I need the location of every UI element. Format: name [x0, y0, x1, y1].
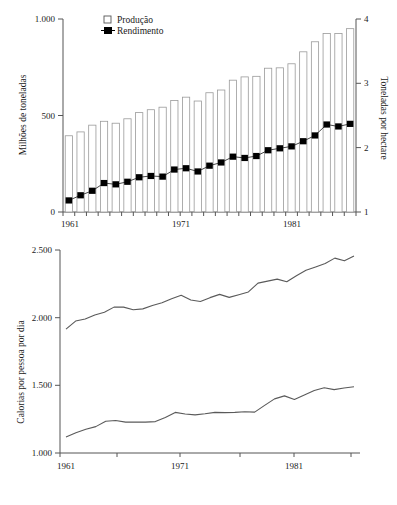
yield-marker	[148, 173, 155, 179]
calories-line	[66, 256, 354, 329]
production-bar	[124, 119, 131, 212]
left-axis: 1.000 500 0	[35, 14, 63, 217]
x-tick-label-1961: 1961	[61, 219, 79, 229]
yield-marker	[159, 174, 166, 180]
production-bar	[89, 125, 96, 212]
left-tick-label-1000: 1.000	[35, 14, 56, 24]
production-bar	[218, 90, 225, 212]
calories-tick-label-1500: 1.500	[32, 380, 53, 390]
legend-label-rendimento: Rendimento	[117, 26, 164, 36]
calories-axis-title: Calorias por pessoa por dia	[16, 320, 26, 424]
production-bar	[194, 101, 201, 212]
yield-marker	[300, 138, 307, 144]
yield-marker	[277, 145, 284, 151]
yield-marker	[77, 192, 84, 198]
production-bar	[276, 68, 283, 212]
production-bar	[112, 123, 119, 212]
yield-marker	[347, 121, 354, 127]
calories-x-label-1971: 1971	[171, 461, 189, 471]
production-bar	[77, 132, 84, 212]
legend-label-producao: Produção	[117, 15, 153, 25]
right-tick-label-4: 4	[364, 14, 369, 24]
production-bar	[288, 64, 295, 212]
right-tick-label-3: 3	[364, 78, 369, 88]
calories-y-axis: 2.500 2.000 1.500 1.000	[32, 245, 60, 458]
yield-marker	[335, 123, 342, 129]
right-axis: 4 3 2 1	[356, 14, 369, 217]
right-tick-label-2: 2	[364, 143, 369, 153]
yield-marker	[195, 168, 202, 174]
legend-swatch-rendimento	[104, 27, 112, 34]
x-axis: 1961 1971 1981	[61, 212, 356, 229]
left-axis-title: Milhões de toneladas	[18, 74, 28, 155]
calories-x-label-1981: 1981	[285, 461, 303, 471]
production-bar	[171, 100, 178, 212]
production-bar	[335, 33, 342, 212]
production-bar	[253, 76, 260, 212]
yield-marker	[218, 159, 225, 165]
x-tick-label-1981: 1981	[283, 219, 301, 229]
yield-marker	[89, 188, 96, 194]
calories-tick-label-1000: 1.000	[32, 448, 53, 458]
left-tick-label-500: 500	[42, 111, 56, 121]
yield-marker	[171, 166, 178, 172]
production-bar	[300, 52, 307, 212]
production-bar	[264, 68, 271, 212]
yield-marker	[101, 180, 108, 186]
production-bar	[182, 97, 189, 212]
yield-marker	[288, 143, 295, 149]
production-bars	[65, 29, 354, 212]
yield-marker	[323, 121, 330, 127]
calories-tick-label-2500: 2.500	[32, 245, 53, 255]
production-bar	[206, 93, 213, 212]
production-yield-chart-panel: Milhões de toneladas Toneladas por hecta…	[0, 0, 397, 240]
calories-tick-label-2000: 2.000	[32, 313, 53, 323]
production-bar	[100, 121, 107, 212]
chart-legend: Produção Rendimento	[101, 15, 164, 36]
calories-series	[66, 256, 354, 437]
yield-marker	[312, 132, 319, 138]
yield-marker	[66, 197, 73, 203]
yield-marker	[124, 179, 131, 185]
production-bar	[311, 42, 318, 212]
yield-marker	[230, 154, 237, 160]
yield-marker	[241, 155, 248, 161]
yield-marker	[112, 181, 119, 187]
production-bar	[229, 80, 236, 212]
legend-swatch-producao	[104, 16, 111, 23]
calories-x-axis: 1961 1971 1981	[57, 453, 360, 471]
yield-marker	[253, 153, 260, 159]
calories-x-label-1961: 1961	[57, 461, 75, 471]
yield-marker	[136, 174, 143, 180]
production-bar	[241, 77, 248, 212]
yield-marker	[206, 163, 213, 169]
production-bar	[347, 29, 354, 212]
calories-chart: Calorias por pessoa por dia 2.500 2.000 …	[0, 240, 397, 505]
yield-marker	[265, 147, 272, 153]
yield-marker	[183, 165, 190, 171]
production-bar	[159, 107, 166, 212]
calories-line	[66, 387, 354, 437]
right-tick-label-1: 1	[364, 207, 369, 217]
left-tick-label-0: 0	[51, 207, 56, 217]
calories-chart-panel: Calorias por pessoa por dia 2.500 2.000 …	[0, 240, 397, 505]
production-bar	[147, 110, 154, 212]
x-tick-label-1971: 1971	[172, 219, 190, 229]
production-bar	[136, 113, 143, 212]
production-yield-chart: Milhões de toneladas Toneladas por hecta…	[0, 0, 397, 240]
right-axis-title: Toneladas por hectare	[379, 76, 389, 159]
